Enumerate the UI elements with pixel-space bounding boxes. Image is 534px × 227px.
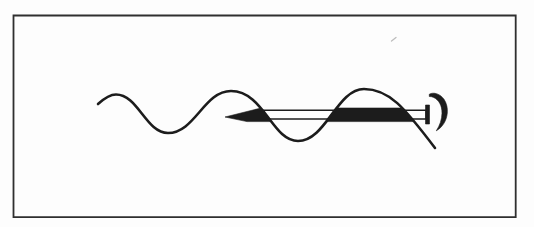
rotation-hook-icon [429,93,447,131]
arrow-tail-bar [426,105,430,124]
arrow-shaft-filled-segment [326,108,414,122]
scan-speck [392,38,397,42]
figure-canvas [0,0,534,227]
